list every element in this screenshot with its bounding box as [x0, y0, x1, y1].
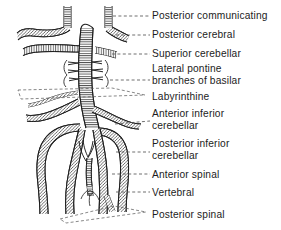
vessel-group	[17, 6, 146, 223]
label-line: Lateral pontine	[152, 63, 241, 75]
label-lateral-pontine-branches-of-basilar: Lateral pontine branches of basilar	[152, 63, 241, 86]
label-anterior-spinal: Anterior spinal	[152, 169, 219, 181]
label-line: cerebellar	[152, 150, 229, 162]
label-vertebral: Vertebral	[152, 187, 194, 199]
label-line: Posterior cerebral	[152, 29, 235, 41]
vessel-superior-cerebellar-right	[95, 47, 117, 58]
leader-line-group	[110, 16, 150, 192]
label-line: branches of basilar	[152, 75, 241, 87]
label-posterior-cerebral: Posterior cerebral	[152, 29, 235, 41]
label-line: Vertebral	[152, 187, 194, 199]
label-superior-cerebellar: Superior cerebellar	[152, 48, 241, 60]
vessel-posterior-cerebral-left	[17, 27, 70, 40]
label-line: cerebellar	[152, 120, 224, 132]
artery-diagram-figure	[0, 0, 281, 230]
label-line: Superior cerebellar	[152, 48, 241, 60]
vessel-superior-cerebellar-left	[23, 45, 80, 56]
label-line: Anterior inferior	[152, 108, 224, 120]
label-line: Posterior spinal	[152, 209, 225, 221]
label-posterior-spinal: Posterior spinal	[152, 209, 225, 221]
label-line: Labyrinthine	[152, 91, 209, 103]
label-line: Anterior spinal	[152, 169, 219, 181]
vessel-anterior-inferior-cerebellar-right	[92, 106, 141, 129]
artery-diagram-svg	[0, 0, 281, 230]
vessel-vertebral-artery-left	[66, 129, 85, 214]
vessel-posterior-communicating-left	[64, 6, 71, 28]
label-anterior-inferior-cerebellar: Anterior inferior cerebellar	[152, 108, 224, 131]
label-line: Posterior communicating	[152, 10, 268, 22]
vessel-posterior-communicating-right	[105, 6, 112, 28]
label-line: Posterior inferior	[152, 138, 229, 150]
vessel-posterior-cerebral-right	[106, 27, 129, 42]
label-posterior-inferior-cerebellar: Posterior inferior cerebellar	[152, 138, 229, 161]
label-posterior-communicating: Posterior communicating	[152, 10, 268, 22]
label-labyrinthine: Labyrinthine	[152, 91, 209, 103]
